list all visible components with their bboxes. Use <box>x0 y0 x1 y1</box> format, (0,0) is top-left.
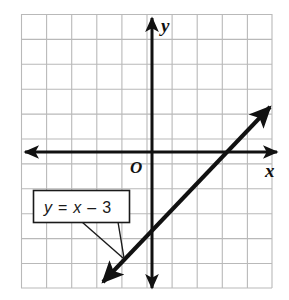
coordinate-plane-figure: y=x–3 y x O <box>0 0 289 300</box>
equation-callout: y=x–3 <box>34 191 130 223</box>
eq-minus: – <box>87 199 96 216</box>
axes <box>25 18 277 288</box>
origin-label: O <box>130 158 142 177</box>
y-axis-label: y <box>159 15 170 36</box>
eq-equals: = <box>58 199 67 216</box>
eq-constant: 3 <box>102 199 111 216</box>
eq-variable-x: x <box>72 199 82 216</box>
graph-canvas: y=x–3 y x O <box>0 0 289 300</box>
callout-pointer <box>82 222 124 258</box>
eq-variable-y: y <box>43 199 53 216</box>
x-axis-label: x <box>264 160 275 181</box>
